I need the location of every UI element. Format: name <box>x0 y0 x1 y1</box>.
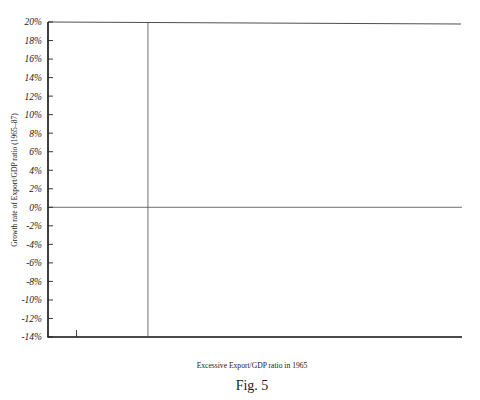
y-tick-label: 18% <box>25 36 43 46</box>
y-tick-label: -8% <box>26 277 42 287</box>
top-border <box>48 22 461 24</box>
y-tick-label: 14% <box>25 73 43 83</box>
y-axis-tick-labels: 20%18%16%14%12%10%8%6%4%2%0%-2%-4%-6%-8%… <box>21 17 42 342</box>
y-tick-label: -14% <box>21 332 42 342</box>
y-tick-label: -2% <box>26 221 42 231</box>
y-tick-label: 4% <box>29 166 42 176</box>
axis-lines <box>48 22 462 337</box>
figure-5-scatter-plot: 20%18%16%14%12%10%8%6%4%2%0%-2%-4%-6%-8%… <box>0 0 480 400</box>
y-tick-label: 12% <box>25 92 43 102</box>
y-tick-label: -4% <box>26 240 42 250</box>
axis-ticks <box>48 22 77 337</box>
reference-lines <box>48 22 462 337</box>
plot-canvas: 20%18%16%14%12%10%8%6%4%2%0%-2%-4%-6%-8%… <box>0 0 480 400</box>
y-tick-label: 16% <box>25 54 43 64</box>
y-tick-label: -10% <box>21 295 42 305</box>
y-tick-label: -12% <box>21 314 42 324</box>
y-tick-label: 6% <box>29 147 42 157</box>
y-tick-label: 0% <box>29 203 42 213</box>
y-tick-label: 20% <box>25 17 43 27</box>
y-tick-label: -6% <box>26 258 42 268</box>
plot-frame <box>48 22 462 337</box>
x-axis-title: Excessive Export/GDP ratio in 1965 <box>197 361 308 370</box>
y-axis-title: Growth rate of Export/GDP ratio (1965–87… <box>10 113 19 247</box>
figure-caption: Fig. 5 <box>236 378 269 393</box>
y-tick-label: 10% <box>25 110 43 120</box>
y-tick-label: 2% <box>29 184 42 194</box>
y-tick-label: 8% <box>29 129 42 139</box>
